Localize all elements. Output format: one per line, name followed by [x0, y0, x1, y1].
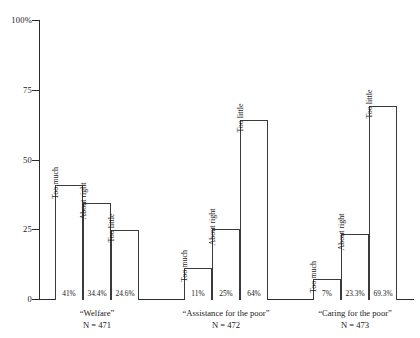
group-caption-name: “Caring for the poor” — [318, 308, 392, 318]
bar-category-label-text: Too much — [309, 261, 318, 293]
y-tick-mark — [32, 160, 40, 161]
y-tick-label: 75 — [23, 86, 32, 95]
y-tick-label-wrap: 50 — [0, 156, 32, 165]
group-caption-name: “Assistance for the poor” — [182, 308, 269, 318]
bar-category-label-text: About right — [337, 213, 346, 250]
bar-category-label: Too much — [60, 167, 69, 199]
bar-category-label-text: Too little — [107, 214, 116, 243]
bar-value-label: 11% — [185, 290, 211, 298]
y-tick-mark — [32, 90, 40, 91]
group-caption: “Caring for the poor”N = 473 — [265, 307, 420, 331]
y-tick-label-wrap: 75 — [0, 86, 32, 95]
group-caption-name: “Welfare” — [80, 308, 115, 318]
bar[interactable]: 11%Too much — [184, 268, 212, 300]
bar-category-label-text: Too much — [180, 250, 189, 282]
bar-category-label: About right — [346, 213, 355, 250]
bar-value-label: 41% — [56, 290, 82, 298]
bar[interactable]: 23.3%About right — [341, 234, 369, 300]
y-tick-mark — [32, 229, 40, 230]
y-tick-label: 0 — [28, 295, 32, 304]
bar-category-label: Too little — [245, 104, 254, 133]
bar-category-label: Too little — [116, 214, 125, 243]
bar-value-label: 64% — [241, 290, 267, 298]
bar-category-label: About right — [88, 182, 97, 219]
bar[interactable]: 69.3%Too little — [369, 106, 397, 300]
y-tick-mark — [32, 20, 40, 21]
group-caption-n: N = 473 — [265, 319, 420, 331]
bar-category-label-text: Too much — [51, 167, 60, 199]
y-tick-label-wrap: 100% — [0, 16, 32, 25]
bar[interactable]: 25%About right — [212, 229, 240, 300]
bar[interactable]: 24.6%Too little — [111, 230, 139, 300]
bar-value-label: 69.3% — [370, 290, 396, 298]
bar-chart: 100%7550250 41%Too much34.4%About right2… — [0, 0, 420, 338]
bar-category-label-text: About right — [208, 209, 217, 246]
bar-category-label-text: Too little — [365, 89, 374, 118]
bar-category-label: Too much — [318, 261, 327, 293]
bar[interactable]: 7%Too much — [313, 279, 341, 300]
bar-value-label: 25% — [213, 290, 239, 298]
bar-category-label: Too little — [374, 89, 383, 118]
y-tick-label: 50 — [23, 156, 32, 165]
y-tick-label-wrap: 0 — [0, 295, 32, 304]
bar-category-label: About right — [217, 209, 226, 246]
bar-category-label-text: Too little — [236, 104, 245, 133]
y-tick-label: 100% — [11, 16, 32, 25]
bar-value-label: 24.6% — [112, 290, 138, 298]
y-tick-label-wrap: 25 — [0, 225, 32, 234]
bar-value-label: 34.4% — [84, 290, 110, 298]
bar[interactable]: 64%Too little — [240, 120, 268, 300]
bar-category-label-text: About right — [79, 182, 88, 219]
bar-value-label: 23.3% — [342, 290, 368, 298]
y-tick-label: 25 — [23, 225, 32, 234]
bar-category-label: Too much — [189, 250, 198, 282]
